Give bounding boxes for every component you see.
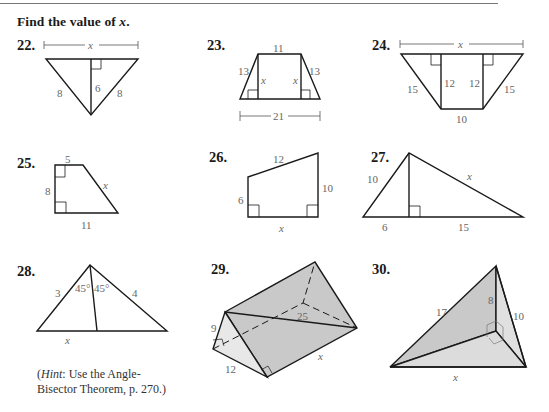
figure-27-triangle [363,153,523,217]
hint-word: Hint [41,367,62,381]
p26-label-top: 12 [273,153,284,165]
figure-25-trapezoid [55,165,118,213]
p23-label-x-right: x [292,74,298,86]
p26-label-right: 10 [322,182,334,194]
p22-label-x: x [87,39,93,51]
p23-label-bottom: 21 [273,110,284,122]
p25-label-left: 8 [45,185,51,197]
p27-label-bottom-left: 6 [382,221,388,233]
p24-label-x: x [457,38,463,50]
p28-label-angle-left: 45° [75,282,90,294]
problem-28-hint: (Hint: Use the Angle- Bisector Theorem, … [37,367,166,397]
p24-label-height-left: 12 [444,77,455,89]
p28-label-right: 4 [132,287,138,299]
p25-label-top: 5 [65,153,71,165]
figure-29-triangular-prism [213,262,357,377]
p24-label-right: 15 [504,83,516,95]
figures-canvas: x 8 6 8 11 13 x x 13 21 x 15 12 12 15 10 [0,0,549,412]
p23-label-right: 13 [309,65,321,77]
p24-label-bottom: 10 [456,113,468,125]
p24-label-left: 15 [407,83,419,95]
p29-label-height: 9 [211,322,217,334]
p22-label-left: 8 [57,87,63,99]
p29-label-diagonal: 25 [297,310,309,322]
p26-label-x: x [278,222,284,234]
figure-30-pyramid [390,266,526,367]
p27-label-x: x [466,170,472,182]
p22-label-altitude: 6 [95,82,101,94]
p30-label-height: 8 [488,294,494,306]
p30-label-left: 17 [436,306,448,318]
p23-label-top: 11 [273,42,284,54]
p30-label-right: 10 [513,310,525,322]
p29-label-base: 12 [225,363,236,375]
p27-label-bottom-right: 15 [458,221,470,233]
p28-label-x: x [64,334,70,346]
p30-label-x: x [452,371,458,383]
p29-label-x: x [317,350,323,362]
p24-label-height-right: 12 [469,77,480,89]
hint-line-2: Bisector Theorem, p. 270.) [37,382,166,397]
p28-label-angle-right: 45° [94,282,109,294]
hint-line-1: (Hint: Use the Angle- [37,367,166,382]
p22-label-right: 8 [117,87,123,99]
p25-label-x: x [102,179,108,191]
p28-label-left: 3 [55,287,61,299]
p23-label-left: 13 [238,65,250,77]
figure-22-triangle [44,40,138,115]
p27-label-left: 10 [367,173,379,185]
p25-label-bottom: 11 [81,219,92,231]
p26-label-left: 6 [238,194,244,206]
p23-label-x-left: x [260,74,266,86]
